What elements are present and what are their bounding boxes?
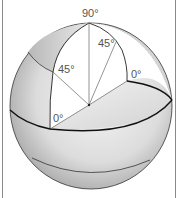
label-0-right: 0° (131, 68, 142, 80)
label-45-left: 45° (58, 63, 75, 75)
label-45-right: 45° (98, 37, 115, 49)
label-90: 90° (82, 7, 99, 19)
center-point (88, 104, 90, 106)
sphere-figure: 90° 45° 45° 0° 0° (0, 0, 178, 198)
label-0-left: 0° (53, 112, 64, 124)
sphere-diagram: 90° 45° 45° 0° 0° (0, 0, 178, 198)
